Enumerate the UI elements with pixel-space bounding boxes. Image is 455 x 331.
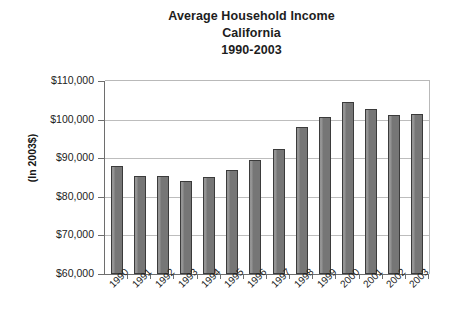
gridline — [105, 158, 429, 159]
bar — [111, 166, 123, 274]
bar — [296, 127, 308, 274]
bar — [319, 117, 331, 274]
y-axis-tick-label: $70,000 — [22, 228, 94, 240]
bar — [388, 115, 400, 274]
plot-area — [104, 81, 429, 275]
bar — [249, 160, 261, 274]
y-axis-tick-label: $90,000 — [22, 151, 94, 163]
y-axis-tick-label: $100,000 — [22, 113, 94, 125]
gridline — [105, 197, 429, 198]
chart-title-line-1: Average Household Income — [48, 8, 455, 25]
bar — [365, 109, 377, 274]
bar — [273, 149, 285, 274]
bar — [157, 176, 169, 274]
y-axis-tick-label: $60,000 — [22, 267, 94, 279]
bar — [134, 176, 146, 274]
bar — [180, 181, 192, 274]
chart-title-line-3: 1990-2003 — [48, 42, 455, 59]
bar — [226, 170, 238, 274]
bar — [411, 114, 423, 274]
y-axis-tick-label: $110,000 — [22, 74, 94, 86]
bar — [342, 102, 354, 274]
gridline — [105, 120, 429, 121]
chart-title: Average Household Income California 1990… — [0, 8, 455, 59]
y-axis-tick-label: $80,000 — [22, 190, 94, 202]
chart-title-line-2: California — [48, 25, 455, 42]
bar — [203, 177, 215, 274]
gridline — [105, 235, 429, 236]
